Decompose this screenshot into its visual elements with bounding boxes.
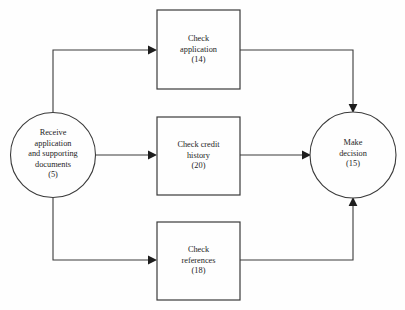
arrowhead-to-check-references	[148, 256, 157, 265]
node-receive-application[interactable]	[11, 113, 96, 198]
node-check-application[interactable]	[157, 10, 240, 89]
edge-start-to-check-references	[53, 198, 151, 261]
edge-check-application-to-end	[240, 50, 353, 106]
edge-start-to-check-application	[53, 50, 151, 113]
node-make-decision[interactable]	[310, 112, 396, 198]
flowchart-shapes	[0, 0, 405, 310]
node-check-references[interactable]	[157, 222, 240, 300]
arrowhead-to-check-application	[148, 46, 157, 55]
arrowhead-to-check-credit	[148, 151, 157, 160]
edge-check-references-to-end	[240, 204, 353, 260]
node-check-credit-history[interactable]	[157, 117, 240, 195]
flowchart-canvas: Receive application and supporting docum…	[0, 0, 405, 310]
